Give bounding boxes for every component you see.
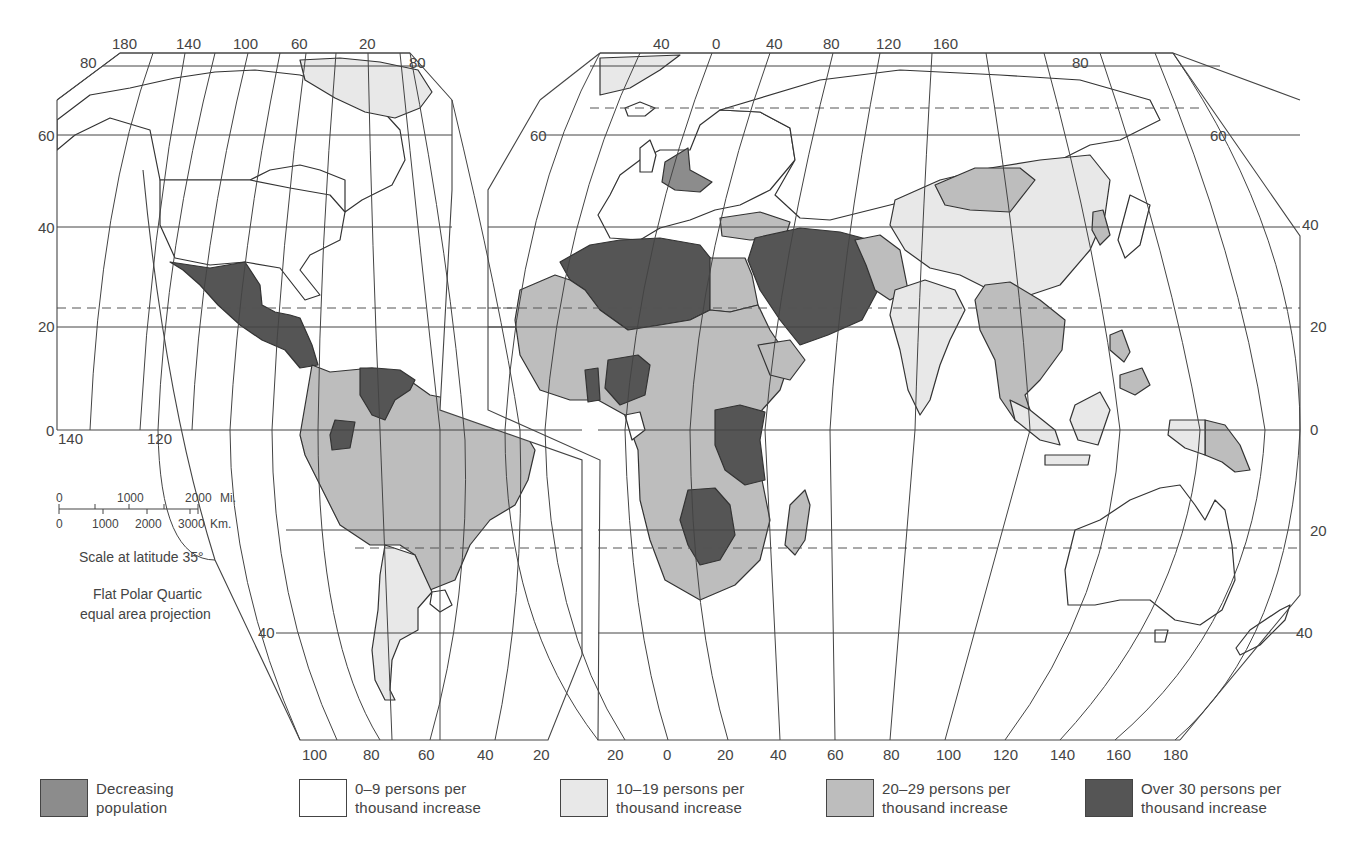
region-madagascar[interactable] (785, 490, 810, 555)
lon-label: 80 (883, 746, 900, 763)
scale-mi-tick: 2000 (185, 491, 212, 505)
region-uk[interactable] (640, 140, 656, 172)
region-new-zealand[interactable] (1236, 605, 1290, 655)
lon-label: 180 (112, 35, 137, 52)
scale-km-tick: 2000 (135, 517, 162, 531)
legend-swatch (826, 779, 874, 817)
lon-label: 0 (663, 746, 671, 763)
lat-label: 40 (258, 624, 275, 641)
lon-label: 80 (823, 35, 840, 52)
lon-label: 60 (827, 746, 844, 763)
lon-label: 120 (993, 746, 1018, 763)
scale-mi-tick: 0 (56, 491, 63, 505)
lon-label: 20 (359, 35, 376, 52)
lat-label: 60 (530, 127, 547, 144)
east-lobe: 40 0 40 80 120 160 80 60 60 40 20 0 20 4… (488, 35, 1327, 763)
lat-label: 80 (80, 54, 97, 71)
scale-km-unit: Km. (210, 517, 231, 531)
lon-label: 20 (607, 746, 624, 763)
legend-swatch (299, 779, 347, 817)
scale-mi-unit: Mi. (220, 491, 236, 505)
legend-label: 0–9 persons per thousand increase (355, 779, 481, 817)
lon-label: 20 (717, 746, 734, 763)
lon-label: 120 (147, 430, 172, 447)
scale-bar: 0 1000 2000 Mi. 0 1000 2000 3000 Km. Sca… (56, 491, 236, 565)
region-uruguay[interactable] (430, 590, 452, 612)
scale-km-tick: 1000 (92, 517, 119, 531)
projection-note-line2: equal area projection (80, 606, 211, 622)
legend-label: 10–19 persons per thousand increase (616, 779, 745, 817)
lon-label: 120 (876, 35, 901, 52)
lat-label: 0 (1310, 421, 1318, 438)
region-greenland-east[interactable] (600, 55, 680, 95)
region-india[interactable] (890, 280, 965, 415)
scale-km-tick: 3000 (178, 517, 205, 531)
legend-item-10-19: 10–19 persons per thousand increase (560, 779, 745, 817)
region-south-america-mid[interactable] (300, 365, 535, 590)
lon-label: 160 (1106, 746, 1131, 763)
lat-label: 0 (46, 422, 54, 439)
lon-label: 0 (712, 35, 720, 52)
region-ghana[interactable] (585, 368, 600, 402)
lon-label: 100 (233, 35, 258, 52)
lon-label: 80 (363, 746, 380, 763)
lat-label: 20 (1310, 522, 1327, 539)
legend-swatch (560, 779, 608, 817)
lon-label: 60 (418, 746, 435, 763)
scale-title: Scale at latitude 35° (79, 549, 204, 565)
lon-label: 100 (936, 746, 961, 763)
scale-km-tick: 0 (56, 517, 63, 531)
lat-label: 20 (1310, 318, 1327, 335)
legend-swatch (40, 779, 88, 817)
legend-item-20-29: 20–29 persons per thousand increase (826, 779, 1011, 817)
legend-item-0-9: 0–9 persons per thousand increase (299, 779, 481, 817)
region-philippines[interactable] (1110, 330, 1150, 395)
scale-mi-tick: 1000 (117, 491, 144, 505)
lon-label: 140 (176, 35, 201, 52)
lat-label: 20 (38, 318, 55, 335)
lon-label: 160 (933, 35, 958, 52)
region-iceland[interactable] (625, 102, 655, 116)
lon-label: 40 (653, 35, 670, 52)
lat-label: 40 (38, 219, 55, 236)
lon-label: 20 (533, 746, 550, 763)
legend-label: Decreasing population (96, 779, 174, 817)
lon-label: 180 (1163, 746, 1188, 763)
projection-note: Flat Polar Quartic equal area projection (80, 586, 211, 622)
lon-label: 40 (770, 746, 787, 763)
legend-item-decreasing: Decreasing population (40, 779, 174, 817)
lat-label: 60 (38, 127, 55, 144)
lat-label: 40 (1302, 216, 1319, 233)
lon-label: 60 (291, 35, 308, 52)
lat-label: 60 (1210, 127, 1227, 144)
lon-label: 100 (302, 746, 327, 763)
lon-label: 140 (1050, 746, 1075, 763)
lat-label: 80 (1072, 54, 1089, 71)
west-lobe: 180 140 100 60 20 80 80 60 40 20 0 140 1… (38, 35, 582, 763)
legend-item-over-30: Over 30 persons per thousand increase (1085, 779, 1282, 817)
lon-label: 140 (58, 430, 83, 447)
legend-label: 20–29 persons per thousand increase (882, 779, 1011, 817)
lat-label: 80 (409, 54, 426, 71)
region-papua-new-guinea[interactable] (1205, 420, 1250, 472)
lon-label: 40 (477, 746, 494, 763)
world-population-growth-map: 180 140 100 60 20 80 80 60 40 20 0 140 1… (0, 0, 1369, 850)
lon-label: 40 (766, 35, 783, 52)
legend-label: Over 30 persons per thousand increase (1141, 779, 1282, 817)
lat-label: 40 (1296, 624, 1313, 641)
region-australia[interactable] (1065, 485, 1235, 625)
projection-note-line1: Flat Polar Quartic (93, 586, 202, 602)
legend-swatch (1085, 779, 1133, 817)
region-tasmania[interactable] (1155, 630, 1168, 642)
